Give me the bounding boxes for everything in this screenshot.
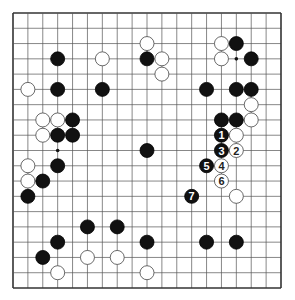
white-stone [229, 189, 243, 203]
numbered-move-2: 2 [229, 144, 243, 158]
move-number: 1 [218, 129, 224, 141]
numbered-move-3: 3 [214, 144, 228, 158]
white-stone [21, 174, 35, 188]
white-stone [214, 37, 228, 51]
white-stone [80, 250, 94, 264]
white-stone [155, 52, 169, 66]
stones: 1234567 [21, 37, 258, 280]
white-stone [95, 52, 109, 66]
numbered-move-7: 7 [185, 189, 199, 203]
black-stone [51, 235, 65, 249]
go-board: 1234567 [0, 0, 295, 300]
black-stone [229, 37, 243, 51]
black-stone [51, 159, 65, 173]
white-stone [140, 37, 154, 51]
white-stone [36, 113, 50, 127]
black-stone [229, 235, 243, 249]
star-point [56, 149, 60, 153]
move-number: 4 [218, 160, 225, 172]
black-stone [36, 250, 50, 264]
numbered-move-6: 6 [214, 174, 228, 188]
move-number: 6 [218, 175, 224, 187]
white-stone [21, 159, 35, 173]
white-stone [229, 128, 243, 142]
white-stone [110, 250, 124, 264]
white-stone [51, 266, 65, 280]
black-stone [200, 235, 214, 249]
white-stone [21, 82, 35, 96]
black-stone [36, 174, 50, 188]
black-stone [244, 52, 258, 66]
white-stone [140, 266, 154, 280]
black-stone [229, 113, 243, 127]
black-stone [51, 52, 65, 66]
white-stone [244, 98, 258, 112]
black-stone [66, 128, 80, 142]
move-number: 7 [189, 190, 195, 202]
black-stone [51, 82, 65, 96]
black-stone [95, 82, 109, 96]
move-number: 2 [233, 145, 239, 157]
move-number: 5 [203, 160, 209, 172]
white-stone [214, 52, 228, 66]
go-board-diagram: 1234567 [0, 0, 295, 300]
black-stone [21, 189, 35, 203]
numbered-move-4: 4 [214, 159, 228, 173]
white-stone [155, 67, 169, 81]
black-stone [200, 82, 214, 96]
numbered-move-1: 1 [214, 128, 228, 142]
black-stone [214, 113, 228, 127]
black-stone [140, 144, 154, 158]
star-point [235, 57, 239, 61]
black-stone [80, 220, 94, 234]
black-stone [229, 82, 243, 96]
black-stone [51, 128, 65, 142]
numbered-move-5: 5 [200, 159, 214, 173]
black-stone [244, 82, 258, 96]
black-stone [66, 113, 80, 127]
white-stone [36, 128, 50, 142]
white-stone [244, 113, 258, 127]
black-stone [140, 235, 154, 249]
white-stone [51, 113, 65, 127]
black-stone [110, 220, 124, 234]
move-number: 3 [218, 145, 224, 157]
black-stone [140, 52, 154, 66]
